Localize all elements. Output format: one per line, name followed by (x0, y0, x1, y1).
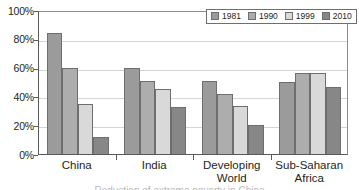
bar (47, 33, 63, 154)
legend-label: 1981 (222, 12, 241, 21)
legend-label: 1999 (296, 12, 315, 21)
y-axis-tick-label: 80% (0, 34, 34, 45)
y-axis-tick-label: 60% (0, 63, 34, 74)
legend-entry: 1999 (285, 12, 315, 21)
legend-swatch-icon (285, 12, 293, 20)
plot-area (38, 11, 348, 155)
bar (217, 94, 233, 154)
y-axis-tick-label: 0% (0, 150, 34, 161)
bar-group (202, 12, 264, 154)
legend-swatch-icon (211, 12, 219, 20)
x-axis-category-label: Sub-SaharanAfrica (271, 159, 349, 184)
bar-group (124, 12, 186, 154)
bar (171, 107, 187, 154)
bar-group (279, 12, 341, 154)
bar (93, 137, 109, 154)
legend-label: 2010 (333, 12, 352, 21)
y-axis-tick-label: 100% (0, 6, 34, 17)
x-axis-category-line: China (38, 159, 116, 172)
bar-group (47, 12, 109, 154)
bar (124, 68, 140, 154)
x-axis-category-label: China (38, 159, 116, 172)
bar (140, 81, 156, 154)
x-axis-category-label: India (116, 159, 194, 172)
legend-entry-list: 1981199019992010 (211, 12, 352, 21)
x-axis-category-label: DevelopingWorld (193, 159, 271, 184)
bar (279, 82, 295, 154)
y-axis-tick-label: 20% (0, 121, 34, 132)
bar (295, 73, 311, 154)
bar (202, 81, 218, 154)
x-axis-category-line: Sub-Saharan (271, 159, 349, 172)
chart-legend: 1981199019992010 (206, 9, 357, 24)
figure-caption: Reduction of extreme poverty in China (0, 185, 359, 190)
bar (310, 73, 326, 154)
bar (326, 87, 342, 154)
legend-swatch-icon (322, 12, 330, 20)
legend-swatch-icon (248, 12, 256, 20)
legend-label: 1990 (259, 12, 278, 21)
bar (62, 68, 78, 154)
bar (155, 89, 171, 154)
bar (233, 106, 249, 154)
bar (248, 125, 264, 154)
bar-chart-figure: 0%20%40%60%80%100% ChinaIndiaDevelopingW… (0, 0, 359, 190)
y-axis-tick-mark (34, 155, 38, 156)
legend-entry: 2010 (322, 12, 352, 21)
bar (78, 104, 94, 154)
legend-entry: 1990 (248, 12, 278, 21)
y-axis-tick-label: 40% (0, 92, 34, 103)
x-axis-category-line: World (193, 172, 271, 185)
x-axis-category-line: Africa (271, 172, 349, 185)
legend-entry: 1981 (211, 12, 241, 21)
x-axis-category-line: India (116, 159, 194, 172)
x-axis-category-line: Developing (193, 159, 271, 172)
